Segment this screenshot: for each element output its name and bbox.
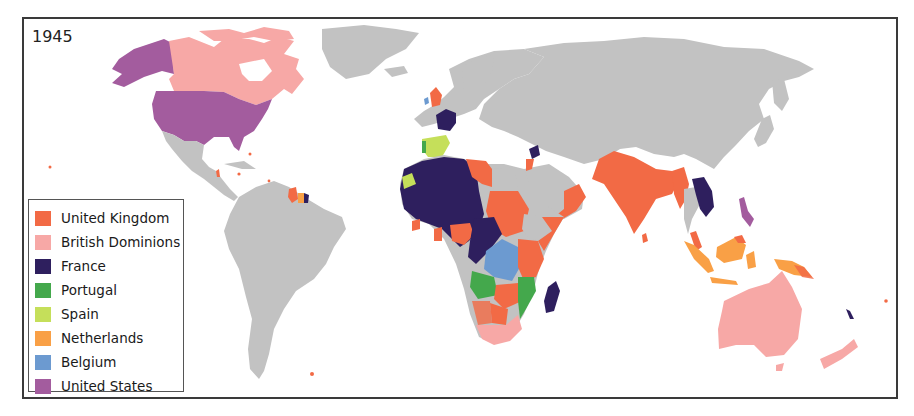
java [710,277,738,285]
bahamas [249,153,252,156]
india [592,151,679,234]
legend-label: Belgium [61,354,116,370]
legend-item-belgium: Belgium [35,350,183,374]
cuba [224,161,256,169]
ireland [424,97,429,105]
hawaii [49,166,52,169]
madagascar [544,281,560,313]
jamaica [237,172,240,175]
portugal [422,141,426,153]
swatch-british-dominions [35,235,51,250]
gold-coast [434,227,442,241]
legend-item-spain: Spain [35,302,183,326]
swatch-belgium [35,355,51,370]
legend-item-france: France [35,254,183,278]
iceland [384,66,408,77]
swatch-united-states [35,379,51,394]
swatch-united-kingdom [35,211,51,226]
swatch-portugal [35,283,51,298]
falklands [310,372,314,376]
legend-item-netherlands: Netherlands [35,326,183,350]
syria-lebanon [529,145,540,159]
map-frame: 1945 United Kingdom British Dominions Fr… [22,17,898,399]
south-america [224,181,346,379]
tasmania [776,363,784,371]
swatch-spain [35,307,51,322]
legend-label: British Dominions [61,234,180,250]
egypt [492,167,518,189]
new-caledonia [846,309,854,319]
legend-label: Portugal [61,282,117,298]
legend: United Kingdom British Dominions France … [28,199,184,392]
mozambique [518,277,536,319]
legend-label: Netherlands [61,330,143,346]
new-zealand [820,339,858,369]
year-label: 1945 [32,27,73,46]
swatch-netherlands [35,331,51,346]
alaska [112,39,174,87]
legend-item-united-kingdom: United Kingdom [35,206,183,230]
trinidad [268,180,271,183]
legend-label: United States [61,378,152,394]
kamchatka [772,79,789,111]
legend-item-portugal: Portugal [35,278,183,302]
legend-label: United Kingdom [61,210,169,226]
philippines [739,197,754,227]
dutch-guiana [298,193,304,203]
canada-arctic-islands [199,27,294,41]
swatch-france [35,259,51,274]
celebes [746,251,756,269]
ceylon [642,233,648,243]
legend-item-british-dominions: British Dominions [35,230,183,254]
legend-item-united-states: United States [35,374,183,398]
legend-label: Spain [61,306,99,322]
fiji [884,299,888,303]
legend-label: France [61,258,106,274]
gambia-sierra [412,219,420,231]
spain [422,135,450,157]
